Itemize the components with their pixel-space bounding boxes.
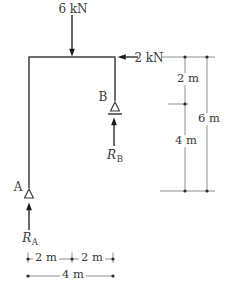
dim-bottom-right: 2 m <box>79 252 105 264</box>
support-b-triangle <box>108 102 122 114</box>
reaction-a-symbol: R <box>22 231 31 245</box>
reaction-a-subscript: A <box>32 237 38 247</box>
support-a-triangle <box>25 189 34 198</box>
side-load-label: 2 kN <box>134 52 163 64</box>
dim-right-upper: 2 m <box>175 73 201 85</box>
frame-diagram: 6 kN 2 kN A B RA RB 2 m 4 m 6 m 2 m 2 m … <box>0 0 227 285</box>
reaction-b-symbol: R <box>107 148 116 162</box>
dimension-dots <box>26 55 208 277</box>
reaction-b-subscript: B <box>117 154 123 164</box>
frame-members <box>29 57 115 188</box>
top-load-label: 6 kN <box>58 3 87 15</box>
reaction-b-arrow <box>111 118 117 147</box>
dim-bottom-total: 4 m <box>60 269 86 281</box>
support-a-label: A <box>14 181 23 193</box>
top-load-arrow <box>69 15 75 57</box>
reaction-a-arrow <box>26 203 32 231</box>
reaction-a-label: RA <box>22 232 38 246</box>
dim-right-lower: 4 m <box>173 135 199 147</box>
support-b-label: B <box>99 91 108 103</box>
dim-right-total: 6 m <box>196 113 222 125</box>
reaction-b-label: RB <box>107 149 123 163</box>
dim-bottom-left: 2 m <box>33 252 59 264</box>
